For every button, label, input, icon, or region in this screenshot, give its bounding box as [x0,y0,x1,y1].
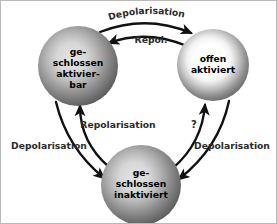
edge-label-repol: Repol. [135,34,168,45]
node-geschlossen-aktivierbar[interactable]: ge- schlossen aktivier- bar [38,26,118,106]
edge-label-unknown: ? [191,119,197,130]
node-offen-aktiviert[interactable]: offen aktiviert [177,29,249,101]
state-cycle-diagram: ge- schlossen aktivier- bar offen aktivi… [1,1,277,224]
node-circle [38,26,118,106]
edge-label-depolarisation-right: Depolarisation [194,140,270,151]
edge-label-repolarisation: Repolarisation [80,119,155,130]
node-geschlossen-inaktiviert[interactable]: ge- schlossen inaktiviert [101,145,181,224]
diagram-canvas: ge- schlossen aktivier- bar offen aktivi… [0,0,277,224]
edge-label-depolarisation-left: Depolarisation [11,140,87,151]
node-circle [177,29,249,101]
node-circle [101,145,181,224]
edge-depolarisation-top [100,23,191,33]
edge-label-depolarisation-top: Depolarisation [107,5,186,22]
